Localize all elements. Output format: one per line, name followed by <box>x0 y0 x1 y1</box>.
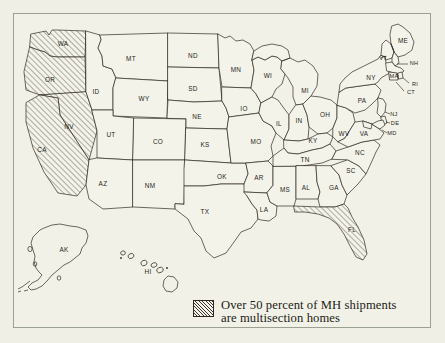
hawaii-island-molokai <box>150 262 157 268</box>
leader-ct <box>396 82 404 91</box>
state-OK[interactable] <box>184 160 248 186</box>
state-label-MS: MS <box>280 186 290 193</box>
hawaii-island-bigisland <box>163 276 178 292</box>
state-label-AK: AK <box>59 246 69 253</box>
state-label-MT: MT <box>126 55 136 62</box>
state-label-NE: NE <box>192 113 201 120</box>
state-label-GA: GA <box>329 184 339 191</box>
state-label-AZ: AZ <box>99 180 108 187</box>
state-label-NV: NV <box>64 123 74 130</box>
state-NM[interactable] <box>133 160 185 209</box>
leader-nj <box>385 112 390 114</box>
state-label-AL: AL <box>302 184 311 191</box>
state-label-FL: FL <box>348 226 356 233</box>
legend-label: Over 50 percent of MH shipments are mult… <box>221 299 397 325</box>
hawaii-dot-2 <box>166 267 168 269</box>
state-label-NM: NM <box>145 182 156 189</box>
hawaii-island-kauai <box>120 250 126 255</box>
state-label-SD: SD <box>188 85 198 92</box>
state-label-LA: LA <box>260 206 269 213</box>
state-label-HI: HI <box>145 268 152 275</box>
state-label-IN: IN <box>296 117 303 124</box>
state-label-MD: MD <box>387 130 396 136</box>
state-label-OH: OH <box>320 111 330 118</box>
state-ND[interactable] <box>168 33 219 68</box>
state-label-AR: AR <box>254 174 264 181</box>
state-label-WY: WY <box>139 95 150 102</box>
state-label-NJ: NJ <box>390 111 397 117</box>
state-label-IO: IO <box>240 105 247 112</box>
state-label-DE: DE <box>391 120 399 126</box>
state-MN[interactable] <box>218 34 254 88</box>
hawaii-island-maui <box>156 266 164 274</box>
state-label-WA: WA <box>58 40 69 47</box>
state-label-VT: VT <box>379 55 387 61</box>
legend-hatch-swatch <box>193 300 214 317</box>
state-label-ID: ID <box>93 88 100 95</box>
state-label-MN: MN <box>231 66 242 73</box>
state-label-MO: MO <box>251 138 262 145</box>
state-label-PA: PA <box>358 97 367 104</box>
state-label-CT: CT <box>407 89 415 95</box>
state-FL[interactable] <box>294 204 367 260</box>
state-label-WI: WI <box>264 72 272 79</box>
state-label-KY: KY <box>308 137 318 144</box>
alaska-island-3 <box>57 276 61 280</box>
state-label-ME: ME <box>398 37 408 44</box>
state-label-UT: UT <box>106 131 115 138</box>
state-label-ND: ND <box>188 52 198 59</box>
state-AZ[interactable] <box>86 158 133 209</box>
hawaii-island-niihau <box>127 253 134 260</box>
states-layer <box>18 24 414 292</box>
us-map: WAORCANVIDMTWYUTAZCONMNDSDNEKSOKTXMNIOMO… <box>0 0 445 343</box>
state-label-OR: OR <box>45 76 55 83</box>
hawaii-island-oahu <box>140 259 148 266</box>
state-label-NY: NY <box>366 74 376 81</box>
state-TX[interactable] <box>175 184 258 258</box>
hawaii-dot-1 <box>120 257 122 259</box>
map-figure: WAORCANVIDMTWYUTAZCONMNDSDNEKSOKTXMNIOMO… <box>0 0 445 343</box>
state-label-NH: NH <box>410 60 419 66</box>
state-label-RI: RI <box>412 81 418 87</box>
state-label-VA: VA <box>360 130 369 137</box>
state-label-TN: TN <box>300 156 309 163</box>
state-label-MI: MI <box>301 87 309 94</box>
legend: Over 50 percent of MH shipments are mult… <box>193 299 397 325</box>
state-label-KS: KS <box>200 141 209 148</box>
state-label-WV: WV <box>339 130 350 137</box>
state-label-IL: IL <box>276 120 282 127</box>
state-label-MA: MA <box>390 73 399 79</box>
alaska-island-1 <box>28 246 32 251</box>
state-label-CA: CA <box>37 146 47 153</box>
state-label-OK: OK <box>217 173 227 180</box>
state-label-CO: CO <box>153 138 163 145</box>
state-label-TX: TX <box>201 208 210 215</box>
leader-ri <box>403 78 409 83</box>
state-NJ[interactable] <box>377 98 386 117</box>
state-label-NC: NC <box>355 149 365 156</box>
state-label-SC: SC <box>346 167 356 174</box>
